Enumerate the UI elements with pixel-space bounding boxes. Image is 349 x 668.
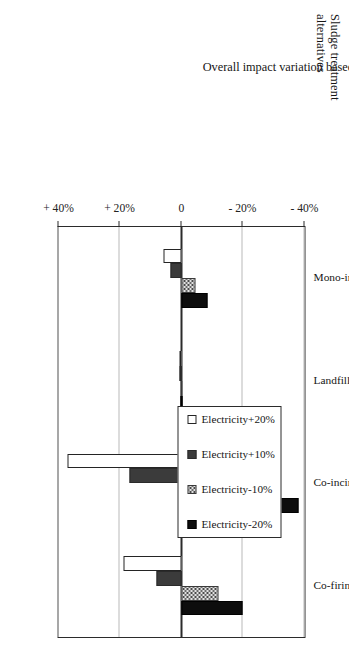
y-axis-tick-label: 0 bbox=[178, 202, 184, 215]
category-label: Landfill bbox=[313, 374, 349, 386]
legend-swatch-icon bbox=[187, 485, 196, 494]
bar[interactable] bbox=[129, 468, 181, 483]
chart-legend: Electricity+20%Electricity+10%Electricit… bbox=[177, 406, 281, 538]
y-axis-title: Overall impact variation based on single… bbox=[117, 60, 349, 75]
bar[interactable] bbox=[181, 293, 207, 308]
bar-chart-figure: Sludge treatment alternatives Overall im… bbox=[0, 0, 349, 668]
bar[interactable] bbox=[179, 351, 181, 366]
legend-item[interactable]: Electricity+20% bbox=[187, 414, 271, 425]
legend-swatch-icon bbox=[187, 520, 196, 529]
bar[interactable] bbox=[156, 571, 181, 586]
bar-group bbox=[58, 556, 304, 615]
bar-group bbox=[58, 249, 304, 308]
legend-item[interactable]: Electricity+10% bbox=[187, 449, 271, 460]
bar-group bbox=[58, 351, 304, 410]
legend-item-label: Electricity+20% bbox=[201, 414, 274, 425]
y-axis-tick-label: - 20% bbox=[228, 202, 256, 215]
bar[interactable] bbox=[180, 381, 182, 396]
y-axis-tick bbox=[180, 221, 181, 227]
y-axis-tick bbox=[57, 221, 58, 227]
legend-item-label: Electricity-10% bbox=[201, 484, 272, 495]
bar[interactable] bbox=[181, 278, 195, 293]
category-label: Co-firing bbox=[313, 579, 349, 591]
y-axis-tick bbox=[241, 221, 242, 227]
legend-swatch-icon bbox=[187, 450, 196, 459]
y-axis-tick-label: + 40% bbox=[43, 202, 74, 215]
bar[interactable] bbox=[123, 556, 181, 571]
legend-item[interactable]: Electricity-20% bbox=[187, 519, 271, 530]
bar[interactable] bbox=[181, 586, 218, 601]
category-label: Mono-incineration bbox=[313, 271, 349, 283]
bar[interactable] bbox=[181, 601, 243, 616]
legend-item[interactable]: Electricity-10% bbox=[187, 484, 271, 495]
legend-swatch-icon bbox=[187, 415, 196, 424]
y-axis-tick bbox=[303, 221, 304, 227]
chart-title-line1: Sludge treatment bbox=[327, 14, 341, 101]
bar[interactable] bbox=[67, 454, 181, 469]
chart-title: Sludge treatment alternatives bbox=[313, 14, 341, 214]
legend-item-label: Electricity-20% bbox=[201, 519, 272, 530]
chart-title-line2: alternatives bbox=[313, 14, 327, 214]
bar[interactable] bbox=[170, 263, 181, 278]
y-axis-tick-label: + 20% bbox=[104, 202, 135, 215]
category-label: Co-incineration bbox=[313, 476, 349, 488]
y-axis-tick-label: - 40% bbox=[290, 202, 318, 215]
legend-item-label: Electricity+10% bbox=[201, 449, 274, 460]
bar[interactable] bbox=[179, 366, 181, 381]
y-axis-tick bbox=[118, 221, 119, 227]
bar[interactable] bbox=[163, 249, 181, 264]
rotated-figure-stage: Sludge treatment alternatives Overall im… bbox=[0, 0, 349, 668]
